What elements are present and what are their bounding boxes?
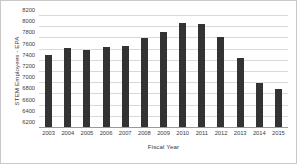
bar[interactable] [141,38,148,128]
bar[interactable] [64,48,71,128]
x-axis-tick-label: 2005 [77,130,96,140]
bar-slot [192,16,211,128]
bar-slot [231,16,250,128]
bar[interactable] [275,89,282,128]
y-axis-tick-label: 7800 [22,29,35,35]
bar[interactable] [83,50,90,128]
bar[interactable] [122,46,129,128]
x-axis-tick-label: 2011 [192,130,211,140]
bar[interactable] [217,37,224,128]
y-axis-tick-label: 7400 [22,52,35,58]
y-axis-tick-label: 6800 [22,85,35,91]
y-axis-tick-label: 6200 [22,119,35,125]
x-axis-tick-label: 2004 [58,130,77,140]
bar-slot [250,16,269,128]
bar-slot [96,16,115,128]
y-axis-tick-label: 6600 [22,97,35,103]
x-axis-tick-label: 2014 [250,130,269,140]
bar-slot [58,16,77,128]
y-axis-tick-label: 7000 [22,74,35,80]
y-axis-tick-label: 8000 [22,18,35,24]
plot-area: 6200640066006800700072007400760078008000… [39,16,288,128]
bar-slot [116,16,135,128]
y-axis-tick-label: 8200 [22,7,35,13]
x-axis-tick-label: 2008 [135,130,154,140]
bar-slot [77,16,96,128]
bar-slot [39,16,58,128]
y-axis-tick-label: 7200 [22,63,35,69]
y-axis-title: STEM Employees - EPA [10,6,24,136]
bar[interactable] [237,58,244,128]
x-axis-tick-label: 2006 [96,130,115,140]
chart-container: STEM Employees - EPA 6200640066006800700… [0,0,297,164]
bar-slot [154,16,173,128]
bar-series [39,16,288,128]
x-axis-tick-label: 2007 [116,130,135,140]
bar[interactable] [103,47,110,128]
bar-slot [269,16,288,128]
bar[interactable] [45,55,52,128]
y-axis-tick-label: 7600 [22,41,35,47]
bar[interactable] [256,83,263,128]
y-axis-tick-label: 6400 [22,108,35,114]
x-axis-tick-label: 2003 [39,130,58,140]
x-axis-tick-label: 2009 [154,130,173,140]
x-axis-tick-label: 2015 [269,130,288,140]
x-axis-title: Fiscal Year [39,143,288,150]
bar[interactable] [198,24,205,128]
bar[interactable] [179,23,186,128]
x-axis-line [39,127,288,128]
bar-slot [135,16,154,128]
x-axis-tick-label: 2013 [231,130,250,140]
x-axis-tick-label: 2010 [173,130,192,140]
bar[interactable] [160,32,167,128]
x-axis-tick-labels: 2003200420052006200720082009201020112012… [39,130,288,140]
x-axis-tick-label: 2012 [211,130,230,140]
bar-slot [211,16,230,128]
bar-slot [173,16,192,128]
